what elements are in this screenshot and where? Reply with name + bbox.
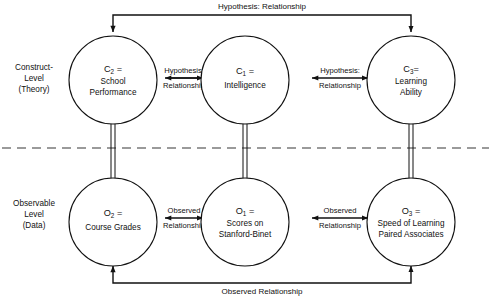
node-o1-line2: Stanford-Binet — [219, 230, 272, 239]
edge-c2-c1-label-line1: Hypothesis: — [164, 66, 204, 75]
node-o2-line1: Course Grades — [85, 223, 141, 232]
node-c3-equals: = — [413, 64, 418, 74]
connector-c1-o1 — [243, 124, 247, 178]
node-c2-line1: School — [100, 77, 125, 86]
connector-c2-o2 — [111, 124, 115, 178]
node-c1[interactable] — [201, 36, 289, 124]
node-o1-symbol: O — [236, 206, 243, 216]
node-c2-equals: = — [114, 64, 122, 74]
edge-o1-o3-label-line2: Relationship — [319, 221, 361, 230]
construct-level-label-line1: Construct- — [15, 63, 53, 72]
edge-c1-c3-label-line1: Hypothesis: — [320, 66, 360, 75]
connector-c3-o3 — [409, 124, 413, 178]
edge-o1-o3-label-line1: Observed — [324, 206, 357, 215]
construct-level-label-line3: (Theory) — [19, 85, 50, 94]
observable-level-label-line3: (Data) — [23, 221, 46, 230]
construct-level-label-line2: Level — [24, 74, 44, 83]
node-c3-line2: Ability — [400, 88, 423, 97]
node-o3-line1: Speed of Learning — [378, 219, 445, 228]
outer-edge-c2-c3-label: Hypothesis: Relationship — [218, 2, 307, 11]
node-c3-line1: Learning — [395, 77, 427, 86]
observable-level-label-line2: Level — [24, 210, 44, 219]
node-o1-equals: = — [246, 206, 254, 216]
node-o2-equals: = — [114, 208, 122, 218]
node-o1-line1: Scores on — [227, 219, 264, 228]
node-o3-equals: = — [412, 206, 420, 216]
edge-o2-o1-label-line2: Relationship — [163, 221, 205, 230]
edge-o2-o1-label-line1: Observed — [168, 206, 201, 215]
edge-c2-c1-label-line2: Relationship — [163, 81, 205, 90]
outer-edge-o2-o3 — [113, 266, 411, 283]
outer-edge-o2-o3-label: Observed Relationship — [222, 287, 303, 296]
diagram-canvas: Hypothesis: Relationship Observed Relati… — [0, 0, 491, 298]
relationship-diagram: Hypothesis: Relationship Observed Relati… — [0, 0, 491, 298]
node-o3-line2: Paired Associates — [378, 230, 443, 239]
node-o2-symbol: O — [104, 208, 111, 218]
node-c1-equals: = — [246, 66, 254, 76]
observable-level-label-line1: Observable — [13, 199, 55, 208]
node-c1-line1: Intelligence — [224, 81, 266, 90]
edge-c1-c3-label-line2: Relationship — [319, 81, 361, 90]
node-o3-symbol: O — [402, 206, 409, 216]
outer-edge-c2-c3 — [113, 15, 411, 32]
node-c2-line2: Performance — [90, 88, 137, 97]
node-o2[interactable] — [69, 178, 157, 266]
